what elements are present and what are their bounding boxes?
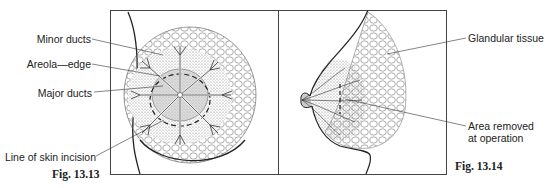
breast-lateral-illustration — [301, 10, 406, 174]
figure-caption-13-13: Fig. 13.13 — [52, 168, 100, 180]
label-line-of-skin-incision: Line of skin incision — [0, 151, 96, 163]
label-glandular-tissue: Glandular tissue — [468, 32, 544, 44]
figure-caption-13-14: Fig. 13.14 — [455, 160, 503, 172]
label-area-removed: Area removed — [468, 120, 534, 132]
breast-frontal-illustration — [124, 12, 256, 174]
label-minor-ducts: Minor ducts — [30, 33, 91, 45]
label-areola-edge: Areola—edge — [20, 58, 91, 70]
label-major-ducts: Major ducts — [30, 87, 92, 99]
label-at-operation: at operation — [468, 132, 523, 144]
